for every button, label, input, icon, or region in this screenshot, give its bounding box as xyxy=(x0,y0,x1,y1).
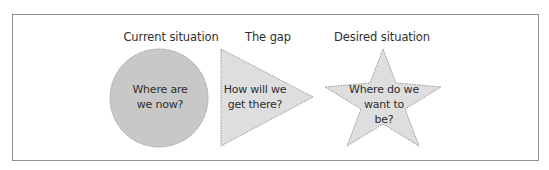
heading-current-situation: Current situation xyxy=(123,30,218,44)
circle-question: Where are we now? xyxy=(132,82,187,112)
heading-desired-situation: Desired situation xyxy=(334,30,430,44)
star-question: Where do we want to be? xyxy=(349,82,419,127)
triangle-question: How will we get there? xyxy=(224,82,287,112)
heading-the-gap: The gap xyxy=(245,30,291,44)
